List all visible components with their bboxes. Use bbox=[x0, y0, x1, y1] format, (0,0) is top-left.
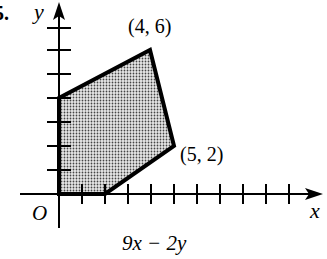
feasible-region bbox=[59, 50, 174, 194]
problem-number: 5. bbox=[0, 2, 9, 24]
origin-label: O bbox=[32, 201, 47, 225]
vertex-label-5-2: (5, 2) bbox=[180, 143, 223, 166]
objective-function: 9x − 2y bbox=[122, 231, 187, 255]
feasible-region-graph: 5. y x O (4, 6) (5, 2) 9x − 2y bbox=[0, 0, 327, 259]
x-axis-label: x bbox=[309, 198, 320, 223]
y-axis-label: y bbox=[32, 0, 44, 24]
vertex-label-4-6: (4, 6) bbox=[128, 15, 171, 38]
